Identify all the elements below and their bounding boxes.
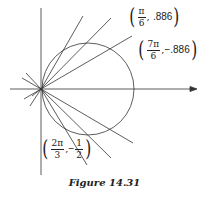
left-paren: ( bbox=[129, 6, 135, 28]
angle-fraction: π 6 bbox=[138, 7, 146, 28]
right-paren: ) bbox=[85, 138, 91, 160]
figure-caption: Figure 14.31 bbox=[0, 177, 209, 188]
angle-fraction: 7π 6 bbox=[147, 40, 161, 61]
left-paren: ( bbox=[138, 39, 144, 61]
right-paren: ) bbox=[191, 39, 197, 61]
polar-graph bbox=[0, 0, 209, 199]
label-7pi-over-6: ( 7π 6 , −.886 ) bbox=[137, 39, 198, 61]
x-axis-arrow-icon bbox=[190, 87, 197, 92]
left-paren: ( bbox=[42, 138, 48, 160]
angle-fraction: 2π 3 bbox=[51, 139, 65, 160]
label-pi-over-6: ( π 6 , .886 ) bbox=[128, 6, 181, 28]
right-paren: ) bbox=[174, 6, 180, 28]
value-fraction: 1 2 bbox=[75, 139, 83, 160]
label-2pi-over-3: ( 2π 3 , − 1 2 ) bbox=[41, 138, 93, 160]
